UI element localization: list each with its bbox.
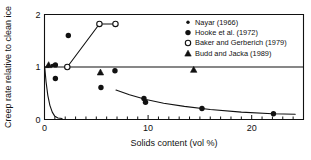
fit-curve-steep-decay-curve	[45, 67, 62, 118]
data-point	[199, 106, 204, 111]
legend-marker-3	[185, 50, 191, 56]
x-tick-label-0: 0	[42, 123, 47, 133]
series-line-Baker and Gerberich (1979)	[67, 24, 115, 67]
creep-rate-chart-figure: 01020012Solids content (vol %)Creep rate…	[0, 0, 311, 160]
x-tick-label-20: 20	[247, 123, 257, 133]
legend-label-0: Nayar (1966)	[195, 18, 238, 27]
x-tick-label-10: 10	[143, 123, 153, 133]
legend-marker-2	[185, 40, 190, 45]
legend-label-1: Hooke et al. (1972)	[195, 28, 258, 37]
chart-canvas: 01020012Solids content (vol %)Creep rate…	[0, 0, 311, 160]
x-axis-title: Solids content (vol %)	[130, 138, 217, 148]
legend-label-3: Budd and Jacka (1989)	[195, 49, 271, 58]
legend-marker-1	[185, 30, 190, 35]
data-point	[271, 111, 276, 116]
legend-label-2: Baker and Gerberich (1979)	[195, 38, 287, 47]
y-tick-label-1: 1	[35, 62, 40, 72]
legend-marker-0	[186, 21, 189, 24]
data-point	[65, 64, 70, 69]
data-point	[53, 76, 58, 81]
data-point	[97, 21, 102, 26]
data-point	[98, 85, 103, 90]
data-point	[97, 69, 103, 75]
data-point	[53, 62, 58, 67]
data-point	[112, 68, 117, 73]
y-axis-title: Creep rate relative to clean ice	[3, 6, 13, 128]
y-tick-label-2: 2	[35, 10, 40, 20]
data-point	[113, 21, 118, 26]
data-point	[66, 33, 71, 38]
y-tick-label-0: 0	[35, 115, 40, 125]
data-point	[143, 99, 148, 104]
